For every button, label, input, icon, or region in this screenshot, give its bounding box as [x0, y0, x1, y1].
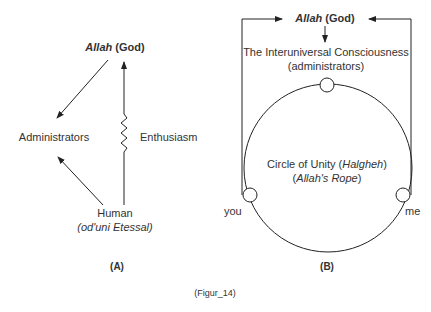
panel-a-administrators-label: Administrators — [19, 131, 89, 144]
panel-b-administrators-label: (administrators) — [288, 60, 364, 73]
panel-b-circle-label: Circle of Unity (Halgheh) — [267, 158, 387, 171]
arrow-god-to-admin — [57, 60, 108, 118]
node-you — [243, 188, 257, 202]
panel-a-caption: (A) — [110, 260, 124, 273]
panel-a-enthusiasm-label: Enthusiasm — [140, 131, 197, 144]
panel-a-human-sublabel: (od'uni Etessal) — [77, 221, 152, 234]
panel-b-rope-label: (Allah's Rope) — [293, 172, 362, 185]
figure-caption: (Figur_14) — [194, 287, 236, 300]
arrow-human-to-admin — [58, 157, 103, 205]
panel-b-consciousness-label: The Interuniversal Consciousness — [243, 46, 409, 59]
panel-b-caption: (B) — [320, 260, 334, 273]
enthusiasm-zigzag-arrow — [121, 62, 127, 205]
panel-a-god-label: Allah (God) — [85, 41, 144, 54]
panel-a-human-label: Human — [97, 207, 132, 220]
panel-b-me-label: me — [405, 205, 420, 218]
panel-b-god-label: Allah (God) — [295, 12, 354, 25]
panel-b-you-label: you — [224, 205, 242, 218]
node-top — [320, 78, 334, 92]
node-me — [396, 188, 410, 202]
